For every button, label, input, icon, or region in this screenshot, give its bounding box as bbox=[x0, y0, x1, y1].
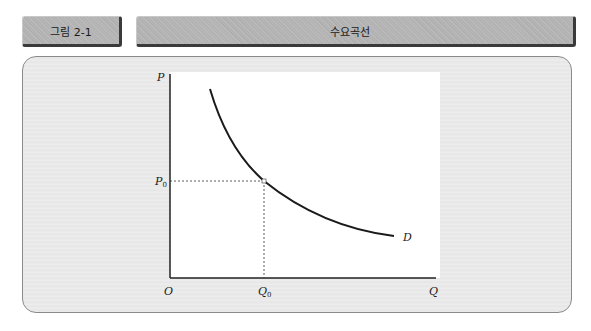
plot-area bbox=[170, 72, 440, 278]
equilibrium-point bbox=[262, 179, 266, 183]
q0-label: Q0 bbox=[258, 286, 272, 299]
figure-label-tab: 그림 2-1 bbox=[22, 16, 122, 47]
p0-label: P0 bbox=[155, 176, 167, 189]
demand-curve-label: D bbox=[403, 232, 412, 243]
figure-label: 그림 2-1 bbox=[50, 23, 91, 39]
figure-title: 수요곡선 bbox=[330, 23, 370, 39]
origin-label: O bbox=[164, 286, 173, 297]
x-axis-label: Q bbox=[429, 286, 438, 297]
demand-curve-chart: P P0 O Q0 Q D bbox=[140, 60, 450, 310]
chart-plot bbox=[140, 60, 450, 310]
y-axis-label: P bbox=[157, 72, 164, 83]
figure-title-tab: 수요곡선 bbox=[136, 16, 576, 47]
